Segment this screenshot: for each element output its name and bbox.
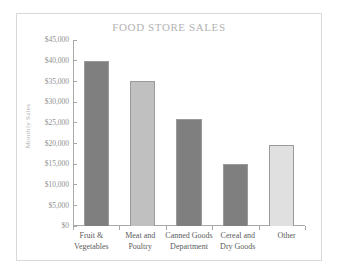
bar[interactable] [223, 164, 248, 226]
x-axis-label-line2: Vegetables [67, 241, 116, 252]
x-axis-label: Other [262, 230, 311, 252]
bar-slot [119, 40, 165, 226]
bar-slot [212, 40, 258, 226]
x-axis-label-line1: Canned Goods [165, 231, 212, 240]
bar-slot [73, 40, 119, 226]
bar-slot [166, 40, 212, 226]
y-axis-tick-label: $35,000 [45, 78, 73, 86]
x-axis-label-line1: Cereal and [221, 231, 255, 240]
x-axis-label-line1: Fruit & [80, 231, 104, 240]
x-axis-label-line2: Dry Goods [213, 241, 262, 252]
x-axis-label: Cereal andDry Goods [213, 230, 262, 252]
y-axis-tick-label: $20,000 [45, 140, 73, 148]
y-axis-tick-label: $40,000 [45, 57, 73, 65]
plot-area: $45,000$40,000$35,000$30,000$25,000$20,0… [73, 40, 305, 226]
x-axis-label: Canned GoodsDepartment [165, 230, 214, 252]
chart-figure: FOOD STORE SALES Monthly Sales $45,000$4… [16, 13, 322, 261]
y-axis-tick-label: $45,000 [45, 36, 73, 44]
bar-series [73, 40, 305, 226]
y-axis-title: Monthly Sales [24, 91, 32, 161]
y-axis-tick-label: $30,000 [45, 98, 73, 106]
x-axis-label: Meat andPoultry [116, 230, 165, 252]
y-axis-tick-label: $15,000 [45, 160, 73, 168]
bar[interactable] [176, 119, 201, 226]
x-axis-label-line1: Other [277, 231, 295, 240]
x-axis-label: Fruit &Vegetables [67, 230, 116, 252]
x-axis-label-line2: Poultry [116, 241, 165, 252]
y-axis-tick-label: $5,000 [48, 202, 73, 210]
y-axis-tick-label: $25,000 [45, 119, 73, 127]
chart-title: FOOD STORE SALES [17, 21, 321, 33]
bar[interactable] [130, 81, 155, 226]
y-axis-tick-label: $0 [62, 222, 74, 230]
x-axis-label-line1: Meat and [125, 231, 155, 240]
x-axis-labels: Fruit &VegetablesMeat andPoultryCanned G… [67, 230, 311, 252]
bar[interactable] [84, 61, 109, 226]
bar[interactable] [269, 145, 294, 226]
x-axis-label-line2: Department [165, 241, 214, 252]
y-axis-tick-label: $10,000 [45, 181, 73, 189]
bar-slot [259, 40, 305, 226]
